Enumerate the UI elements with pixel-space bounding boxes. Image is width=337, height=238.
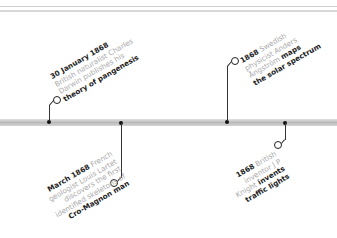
event-label: 1868 Swedish physicist Anders Ångström m…	[239, 20, 323, 88]
top-rule-thick	[0, 10, 337, 12]
event-ring-icon	[231, 57, 239, 65]
event-label: 30 January 1868 British naturalist Charl…	[49, 30, 143, 104]
event-label: March 1868 French geologist Louis Lartet…	[16, 150, 131, 238]
top-rule	[0, 6, 337, 7]
connector-line	[227, 66, 228, 121]
event-ring-icon	[53, 96, 61, 104]
connector-line	[49, 105, 50, 121]
event-label: 1868 British inventor J P Knight invents…	[210, 150, 291, 217]
event-ring-icon	[274, 141, 282, 149]
connector-line	[285, 123, 286, 140]
